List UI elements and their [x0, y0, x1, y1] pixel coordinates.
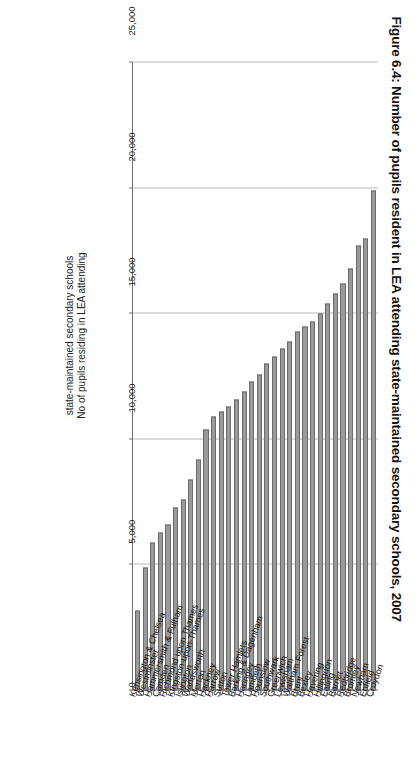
bar-row [211, 62, 216, 690]
category-tick [327, 691, 328, 695]
category-tick [304, 691, 305, 695]
category-tick [320, 691, 321, 695]
bar-row [325, 62, 330, 690]
figure-panel: Figure 6.4: Number of pupils resident in… [0, 0, 418, 757]
bar-row [173, 62, 178, 690]
bar [325, 303, 330, 690]
category-tick [205, 691, 206, 695]
bar-row [150, 62, 155, 690]
category-tick [258, 691, 259, 695]
axis-tick [129, 61, 133, 62]
bar-row [333, 62, 338, 690]
value-axis-title-line1: No of pupils residing in LEA attending [76, 170, 88, 500]
bar-row [280, 62, 285, 690]
value-axis-title: state-maintained secondary schools No of… [64, 170, 88, 500]
bar-row [242, 62, 247, 690]
bar [226, 406, 231, 690]
category-tick [358, 691, 359, 695]
bar-row [226, 62, 231, 690]
bar-row [272, 62, 277, 690]
bar-row [356, 62, 361, 690]
category-tick [366, 691, 367, 695]
bar-row [264, 62, 269, 690]
bar-row [188, 62, 193, 690]
bar-row [287, 62, 292, 690]
axis-tick [129, 563, 133, 564]
category-tick [343, 691, 344, 695]
bar-row [348, 62, 353, 690]
category-tick [251, 691, 252, 695]
category-tick [281, 691, 282, 695]
bar-row [318, 62, 323, 690]
category-tick [212, 691, 213, 695]
bar [257, 374, 262, 691]
bar-row [219, 62, 224, 690]
category-tick [312, 691, 313, 695]
bar [340, 283, 345, 690]
category-tick [197, 691, 198, 695]
axis-tick-label: 25,000 [126, 6, 137, 35]
category-tick [174, 691, 175, 695]
category-tick [335, 691, 336, 695]
category-tick [350, 691, 351, 695]
bar [310, 321, 315, 690]
bar [371, 190, 376, 690]
bar-row [302, 62, 307, 690]
bar [272, 356, 277, 690]
bar-row [158, 62, 163, 690]
category-tick [151, 691, 152, 695]
category-tick [136, 691, 137, 695]
axis-tick-label: 20,000 [126, 131, 137, 160]
category-tick [166, 691, 167, 695]
category-labels: CroydonEnfieldNewhamBromleyRedbridgeBarn… [378, 62, 418, 690]
bar-row [204, 62, 209, 690]
bar [348, 268, 353, 690]
value-axis-title-line2: state-maintained secondary schools [64, 170, 76, 500]
category-tick [289, 691, 290, 695]
category-tick [243, 691, 244, 695]
category-tick [274, 691, 275, 695]
category-tick [228, 691, 229, 695]
bar [295, 331, 300, 690]
category-tick [266, 691, 267, 695]
bar-row [165, 62, 170, 690]
bar-row [310, 62, 315, 690]
bar-series [133, 62, 378, 690]
category-tick [143, 691, 144, 695]
bar [356, 245, 361, 690]
bar [219, 411, 224, 690]
axis-tick-label: 10,000 [126, 383, 137, 412]
axis-tick-label: 5,000 [126, 519, 137, 543]
bar [280, 348, 285, 690]
bar-row [181, 62, 186, 690]
axis-tick [129, 187, 133, 188]
bar [287, 341, 292, 690]
bar-row [295, 62, 300, 690]
category-tick [220, 691, 221, 695]
axis-tick-label: 15,000 [126, 257, 137, 286]
bar [211, 416, 216, 690]
bar-row [257, 62, 262, 690]
bar-row [371, 62, 376, 690]
category-tick [373, 691, 374, 695]
category-tick [297, 691, 298, 695]
category-tick [159, 691, 160, 695]
bar [318, 313, 323, 690]
bar-row [234, 62, 239, 690]
plot-area [133, 62, 378, 690]
axis-tick [129, 312, 133, 313]
bar-row [196, 62, 201, 690]
category-tick [189, 691, 190, 695]
bar-row [363, 62, 368, 690]
bar [363, 238, 368, 690]
bar [264, 363, 269, 690]
category-tick [182, 691, 183, 695]
axis-tick [129, 438, 133, 439]
bar-row [143, 62, 148, 690]
bar-row [340, 62, 345, 690]
bar [333, 293, 338, 690]
bar-row [249, 62, 254, 690]
category-tick [235, 691, 236, 695]
